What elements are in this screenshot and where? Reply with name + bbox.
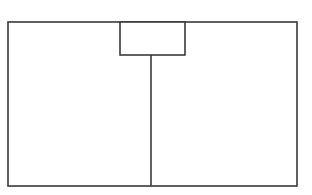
diagram-canvas [0,0,312,195]
top-center-box [120,22,185,55]
diagram-svg [0,0,312,195]
